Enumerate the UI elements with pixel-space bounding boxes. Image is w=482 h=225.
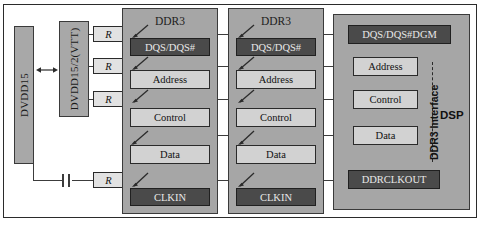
ddr3-2-signal-dqs-label: DQS/DQS# [251,42,301,53]
power-supply-label: DVDD15 [18,73,30,117]
resistor-address: R [93,58,124,74]
ddr3-1-signal-dqs-label: DQS/DQS# [145,42,195,53]
stub-ddr3-1-data [128,130,150,146]
decoupling-capacitor [62,174,72,188]
ddr3-1-signal-control-label: Control [154,112,186,123]
ddr3-interface-diagram: DVDD15 DVDD15/2(VTT) R R R R DDR3 DQS/DQ… [0,0,482,225]
ddr3-1-signal-address-label: Address [153,74,187,85]
stub-ddr3-2-control [236,89,256,104]
power-supply-block: DVDD15 [14,26,34,164]
resistor-dqs: R [93,26,124,42]
stub-ddr3-1-control [130,89,150,104]
stub-ddr3-2-dqs [236,24,256,39]
ddr3-1-signal-clkin-label: CLKIN [154,192,186,203]
dsp-title: DSP [440,109,464,121]
stub-ddr3-1-clkin [130,172,150,188]
ddr3-2-signal-data-label: Data [266,149,286,160]
ddr3-2-signal-data: Data [236,145,316,164]
dsp-signal-control-label: Control [369,94,401,105]
resistor-clock: R [93,172,124,188]
wire-cap-to-r4 [72,180,94,181]
dsp-signal-dqs-dgm: DQS/DQS#DGM [348,25,451,44]
ddr3-1-signal-control: Control [130,108,210,127]
stub-ddr3-1-dqs [130,24,150,39]
wire-vdd-to-cap [33,180,62,181]
dsp-signal-control: Control [353,90,418,109]
dsp-signal-dqs-dgm-label: DQS/DQS#DGM [362,29,437,40]
ddr3-1-signal-data: Data [130,145,210,164]
ddr3-1-signal-address: Address [130,70,210,89]
stub-ddr3-2-clkin [236,172,256,188]
ddr3-1-signal-dqs: DQS/DQS# [130,38,210,56]
dsp-interface-label: DDR3 Interface [428,85,440,160]
dsp-signal-data-label: Data [376,130,396,141]
vtt-termination-label: DVDD15/2(VTT) [68,28,80,111]
stub-ddr3-2-data [236,130,256,146]
stub-ddr3-2-address [236,56,256,71]
ddr3-1-signal-data-label: Data [160,149,180,160]
resistor-control: R [93,91,124,107]
ddr3-2-signal-clkin: CLKIN [236,188,316,206]
ddr3-2-signal-clkin-label: CLKIN [260,192,292,203]
ddr3-2-signal-dqs: DQS/DQS# [236,38,316,56]
vtt-termination-block: DVDD15/2(VTT) [59,21,89,117]
ddr3-2-signal-control-label: Control [260,112,292,123]
dsp-signal-ddrclkout-label: DDRCLKOUT [362,174,427,185]
resistor-control-label: R [105,94,111,105]
ddr3-2-signal-address-label: Address [259,74,293,85]
ddr3-2-signal-address: Address [236,70,316,89]
stub-ddr3-1-address [130,56,150,71]
dsp-signal-address: Address [353,57,418,76]
bidirectional-arrow [36,63,58,77]
wire-vdd-drop [33,163,34,181]
dsp-signal-address-label: Address [368,61,402,72]
resistor-dqs-label: R [105,29,111,40]
resistor-address-label: R [105,61,111,72]
ddr3-1-signal-clkin: CLKIN [130,188,210,206]
dsp-signal-ddrclkout: DDRCLKOUT [348,170,440,189]
dsp-signal-data: Data [353,126,418,145]
ddr3-2-signal-control: Control [236,108,316,127]
resistor-clock-label: R [105,175,111,186]
